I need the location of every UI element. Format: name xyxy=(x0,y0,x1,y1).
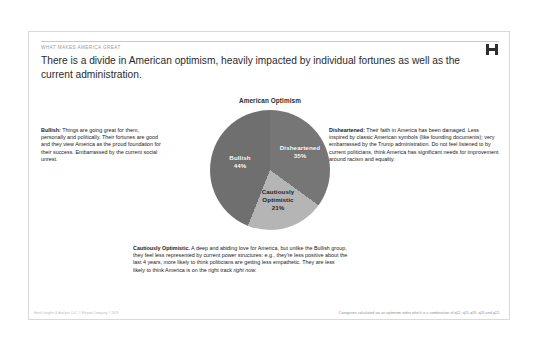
pie-slice-name-bullish: Bullish xyxy=(229,154,250,161)
pie-slice-value-bullish: 44% xyxy=(234,162,247,169)
annotation-bullish: Bullish: Things are going great for them… xyxy=(41,127,163,163)
footer-copyright: Hatch Insights & Analysis LLC. © Elegant… xyxy=(34,311,119,315)
annotation-cautious-term: Cautiously Optimistic. xyxy=(133,245,190,251)
annotation-cautiously-optimistic: Cautiously Optimistic. A deep and abidin… xyxy=(133,245,348,274)
pie-chart: Disheartened 35% Bullish 44% Cautiously … xyxy=(210,110,330,230)
pie-slice-label-disheartened: Disheartened 35% xyxy=(272,144,328,160)
page-title: There is a divide in American optimism, … xyxy=(41,54,481,81)
pie-slice-label-cautiously-optimistic: Cautiously Optimistic 21% xyxy=(251,188,305,213)
annotation-bullish-term: Bullish: xyxy=(41,127,61,133)
annotation-disheartened-term: Disheartened: xyxy=(329,127,365,133)
annotation-cautious-emphasis: right now. xyxy=(233,267,256,273)
pie-slice-name-disheartened: Disheartened xyxy=(280,144,320,151)
pie-slice-name-cautiously-optimistic: Cautiously Optimistic xyxy=(262,188,295,203)
chart-title: American Optimism xyxy=(29,97,511,104)
pie-slice-value-disheartened: 35% xyxy=(294,152,307,159)
h-monogram-icon xyxy=(486,44,498,55)
annotation-disheartened: Disheartened: Their faith in America has… xyxy=(329,127,499,163)
slide-card: WHAT MAKES AMERICA GREAT There is a divi… xyxy=(28,31,510,320)
eyebrow-label: WHAT MAKES AMERICA GREAT xyxy=(41,45,121,50)
pie-slice-value-cautiously-optimistic: 21% xyxy=(272,204,285,211)
logo-crossbar xyxy=(489,48,496,50)
footer-methodology: Categories calculated via an optimism in… xyxy=(339,311,500,315)
pie-slice-label-bullish: Bullish 44% xyxy=(216,154,264,170)
header-divider xyxy=(41,41,499,42)
